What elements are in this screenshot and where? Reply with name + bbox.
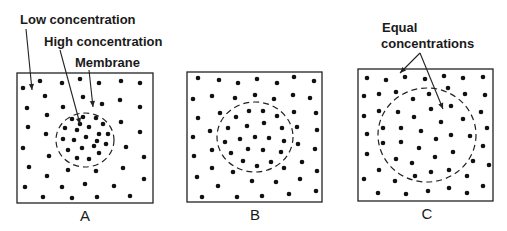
particle-dot <box>70 196 75 201</box>
particle-dot <box>138 130 143 135</box>
particle-dot <box>384 78 389 83</box>
particle-dot <box>241 159 246 164</box>
particle-dot <box>104 142 109 147</box>
particle-dot <box>66 148 71 153</box>
particle-dot <box>275 114 280 119</box>
particle-dot <box>27 165 32 170</box>
particle-dot <box>44 132 49 137</box>
particle-dot <box>128 194 133 199</box>
particle-dot <box>419 129 424 134</box>
annotation-equal-2: concentrations <box>381 36 474 51</box>
particle-dot <box>261 148 266 153</box>
particle-dot <box>447 186 452 191</box>
particle-dot <box>393 179 398 184</box>
particle-dot <box>234 115 239 120</box>
particle-dot <box>121 166 126 171</box>
membrane-circle <box>378 88 476 182</box>
particle-dot <box>292 110 297 115</box>
particle-dot <box>26 125 31 130</box>
particle-dot <box>313 147 318 152</box>
particle-dot <box>312 79 317 84</box>
particle-dot <box>210 166 215 171</box>
particle-dot <box>78 77 83 82</box>
particle-dot <box>216 184 221 189</box>
particle-dot <box>442 74 447 79</box>
particle-dot <box>427 92 432 97</box>
particle-dot <box>233 96 238 101</box>
particle-dot <box>191 135 196 140</box>
particle-dot <box>291 93 296 98</box>
particle-dot <box>261 109 266 114</box>
particle-dot <box>308 96 313 101</box>
particle-dot <box>63 126 68 131</box>
particle-dot <box>47 154 52 159</box>
particle-dot <box>429 170 434 175</box>
particle-dot <box>80 146 85 151</box>
particle-dot <box>142 155 147 160</box>
particle-dot <box>75 128 80 133</box>
particle-dot <box>210 94 215 99</box>
particle-dot <box>403 75 408 80</box>
particle-dot <box>399 126 404 131</box>
particle-dot <box>119 79 124 84</box>
particle-dot <box>210 148 215 153</box>
particle-dot <box>412 115 417 120</box>
leader-line <box>26 29 32 90</box>
particle-dot <box>138 105 143 110</box>
particle-dot <box>238 137 243 142</box>
particle-dot <box>217 78 222 83</box>
particle-dot <box>481 184 486 189</box>
particle-dot <box>192 154 197 159</box>
particle-dot <box>253 135 258 140</box>
particle-dot <box>404 192 409 197</box>
particle-dot <box>292 75 297 80</box>
panels: ABC <box>17 69 493 224</box>
particle-dot <box>314 111 319 116</box>
diffusion-diagram: ABC Low concentrationHigh concentrationM… <box>0 0 507 231</box>
particle-dot <box>394 157 399 162</box>
annotation-high: High concentration <box>44 34 163 49</box>
annotation-low: Low concentration <box>20 12 136 27</box>
particle-dot <box>61 137 66 142</box>
particle-dot <box>434 137 439 142</box>
particle-dot <box>97 81 102 86</box>
particle-dot <box>439 120 444 125</box>
particle-dot <box>23 185 28 190</box>
particle-dot <box>119 120 124 125</box>
particle-dot <box>381 126 386 131</box>
particle-dot <box>84 135 89 140</box>
leader-line <box>420 53 443 109</box>
particle-dot <box>25 106 30 111</box>
particle-dot <box>451 150 456 155</box>
particle-dot <box>487 163 492 168</box>
panel-a: A <box>17 73 153 224</box>
particle-dot <box>81 95 86 100</box>
particle-dot <box>295 125 300 130</box>
particle-dot <box>45 113 50 118</box>
particle-dot <box>21 146 26 151</box>
panel-c: C <box>358 69 493 222</box>
particle-dot <box>250 179 255 184</box>
particle-dot <box>41 195 46 200</box>
particle-dot <box>274 180 279 185</box>
particle-dot <box>279 150 284 155</box>
particle-dot <box>70 117 75 122</box>
particle-dot <box>94 169 99 174</box>
annotation-equal-1: Equal <box>382 20 417 35</box>
particle-dot <box>481 144 486 149</box>
particle-dot <box>118 98 123 103</box>
particle-dot <box>446 86 451 91</box>
particle-dot <box>45 174 50 179</box>
particle-dot <box>410 161 415 166</box>
particle-dot <box>100 102 105 107</box>
particle-dot <box>315 169 320 174</box>
particle-dot <box>468 134 473 139</box>
particle-dot <box>191 97 196 102</box>
particle-dot <box>92 144 97 149</box>
particle-dot <box>200 195 205 200</box>
particle-dot <box>94 116 99 121</box>
particle-dot <box>246 147 251 152</box>
particle-dot <box>60 81 65 86</box>
particle-dot <box>95 195 100 200</box>
particle-dot <box>417 146 422 151</box>
